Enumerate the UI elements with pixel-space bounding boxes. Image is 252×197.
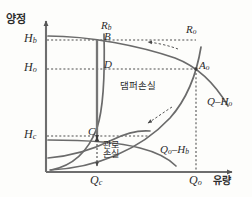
point-markers <box>194 67 197 70</box>
curve-label-q-ho: Q–Ho <box>207 96 232 108</box>
direction-arrow-upper <box>148 42 178 49</box>
curve-label-q-ho-sub: o <box>228 99 232 108</box>
curve-label-qo-hb-base2: –H <box>172 143 185 155</box>
x-tick-qc-base: Q <box>90 173 99 187</box>
point-label-ao: Ao <box>199 60 209 72</box>
point-label-ao-sub: o <box>206 63 210 72</box>
x-axis-label: 유량 <box>213 176 231 186</box>
curve-qo-hb-lower <box>48 131 150 158</box>
curve-label-q-ho-base: Q–H <box>207 95 228 107</box>
point-label-c: C <box>88 126 95 137</box>
y-tick-hc: Hc <box>24 128 36 142</box>
point-label-b: B <box>104 31 111 42</box>
marker-ao <box>194 67 197 70</box>
pump-performance-diagram: 양정 유량 Hb Ho Hc Qc Qo Rb Ro Q–Ho Qo–Hb B … <box>0 0 252 197</box>
y-tick-hc-sub: c <box>33 132 37 141</box>
y-tick-ho-base: H <box>24 60 33 74</box>
axis-lines <box>46 21 232 172</box>
curve-label-ro-base: R <box>186 23 193 35</box>
curve-label-ro: Ro <box>186 24 196 36</box>
x-tick-qo: Qo <box>189 174 202 188</box>
annotation-duct-loss: 관로 손실 <box>103 141 119 160</box>
point-label-ao-base: A <box>199 59 206 71</box>
x-tick-qo-base: Q <box>189 173 198 187</box>
y-tick-hb-sub: b <box>33 36 37 45</box>
curve-label-qo-hb: Qo–Hb <box>160 144 189 156</box>
point-label-d: D <box>104 59 112 70</box>
y-axis-label: 양정 <box>6 14 26 25</box>
x-tick-qc: Qc <box>90 174 102 188</box>
annotation-duct-loss-line2: 손실 <box>103 150 119 159</box>
curve-label-qo-hb-base: Q <box>160 143 168 155</box>
x-tick-qo-sub: o <box>198 178 202 187</box>
y-tick-ho: Ho <box>24 61 37 75</box>
annotation-damper-loss: 댐퍼손실 <box>120 81 156 91</box>
y-tick-hb-base: H <box>24 31 33 45</box>
curve-label-ro-sub: o <box>193 27 197 36</box>
x-tick-qc-sub: c <box>99 178 103 187</box>
curve-label-qo-hb-sub2: b <box>185 147 189 156</box>
y-tick-hc-base: H <box>24 127 33 141</box>
y-tick-ho-sub: o <box>33 65 37 74</box>
y-tick-hb: Hb <box>24 32 37 46</box>
